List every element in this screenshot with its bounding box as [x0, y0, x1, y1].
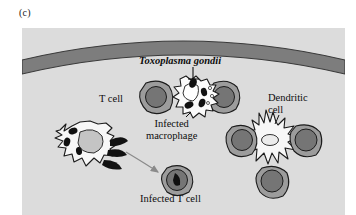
label-infected-macrophage: Infected macrophage — [146, 118, 197, 141]
label-toxoplasma-gondii: Toxoplasma gondii — [139, 55, 221, 67]
t-cell-left — [140, 81, 173, 113]
infected-t-cell — [162, 166, 193, 196]
figure-panel-c: (c) — [0, 0, 356, 215]
label-dendritic-cell: Dendritic cell — [268, 92, 308, 115]
label-t-cell: T cell — [99, 93, 123, 105]
label-infected-t-cell: Infected T cell — [140, 193, 201, 205]
